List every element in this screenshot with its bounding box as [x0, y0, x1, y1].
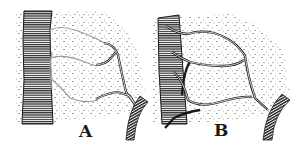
illustration — [0, 0, 303, 149]
striated-band-a — [22, 11, 53, 124]
panel-label-b: B — [214, 122, 228, 139]
panel-label-a: A — [79, 123, 92, 140]
